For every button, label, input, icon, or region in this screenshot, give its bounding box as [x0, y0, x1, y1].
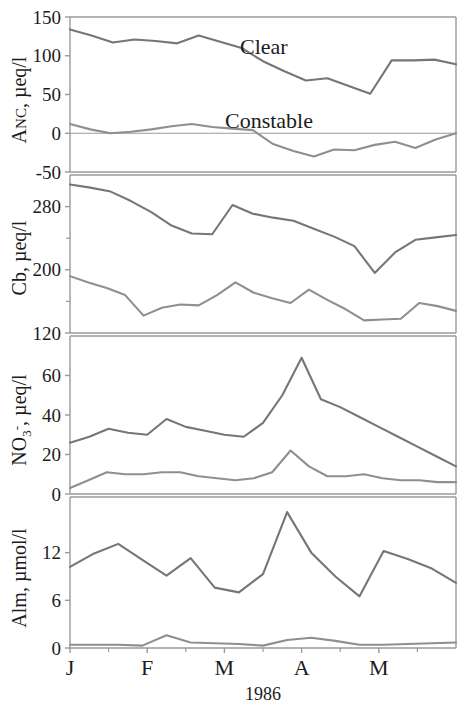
x-axis-month-label-1: F: [141, 655, 153, 680]
series-label-clear: Clear: [240, 34, 288, 59]
tick-labels-layer: -5005010015012020028002040600612: [33, 7, 62, 659]
x-axis-month-label-2: M: [215, 655, 235, 680]
series-annotations-layer: Clear Constable: [225, 34, 313, 133]
ytick-label-anc-150: 150: [33, 7, 62, 28]
ytick-label-cb-280: 280: [33, 196, 62, 217]
ytick-label-no3-20: 20: [42, 444, 61, 465]
ytick-label-anc-100: 100: [33, 45, 62, 66]
series-line-no3-clear: [70, 358, 456, 467]
ytick-label-anc-0: 0: [52, 123, 62, 144]
series-line-alm-clear: [70, 512, 456, 596]
figure-container: -5005010015012020028002040600612 ANC, µe…: [0, 0, 467, 710]
y-axis-title-no3: NO3-, µeq/l: [8, 374, 34, 466]
anc-label-nc: NC: [13, 108, 29, 129]
ytick-label-cb-120: 120: [33, 323, 62, 344]
no3-label-units: , µeq/l: [8, 374, 31, 426]
ytick-label-anc--50: -50: [36, 162, 61, 183]
series-line-cb-constable: [70, 276, 456, 320]
anc-label-units: , µeq/l: [8, 56, 31, 108]
ytick-label-alm-6: 6: [52, 590, 62, 611]
ytick-label-alm-12: 12: [42, 542, 61, 563]
ytick-label-no3-40: 40: [42, 405, 61, 426]
x-axis-month-label-0: J: [66, 655, 75, 680]
series-line-no3-constable: [70, 451, 456, 489]
x-axis-month-label-4: M: [369, 655, 389, 680]
y-axis-title-anc: ANC, µeq/l: [8, 56, 31, 143]
series-label-constable: Constable: [225, 108, 313, 133]
series-line-alm-constable: [70, 635, 456, 645]
y-axis-title-cb: Cb, µeq/l: [8, 220, 31, 295]
y-axis-titles-layer: ANC, µeq/l Cb, µeq/l NO3-, µeq/l Alm, µm…: [8, 56, 34, 628]
ytick-label-cb-200: 200: [33, 259, 62, 280]
no3-label-main: NO: [8, 437, 30, 466]
series-line-cb-clear: [70, 184, 456, 272]
x-axis-month-label-3: A: [294, 655, 310, 680]
ytick-label-anc-50: 50: [42, 84, 61, 105]
anc-label-a: A: [8, 128, 30, 143]
ytick-label-no3-60: 60: [42, 365, 61, 386]
y-axis-title-alm: Alm, µmol/l: [8, 528, 31, 628]
x-axis-labels-layer: JFMAM1986: [66, 655, 389, 704]
ytick-label-no3-0: 0: [52, 484, 62, 505]
ytick-label-alm-0: 0: [52, 638, 62, 659]
x-axis-year-label: 1986: [245, 684, 281, 704]
multipanel-timeseries-chart: -5005010015012020028002040600612 ANC, µe…: [0, 0, 467, 710]
